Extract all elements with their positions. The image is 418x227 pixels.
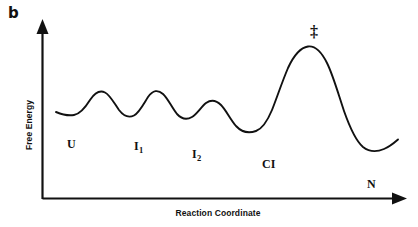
transition-state-double-dagger-icon: ‡ [310,24,318,40]
state-label-intermediate-1: I1 [134,140,143,152]
free-energy-curve [56,46,398,151]
state-label-intermediate-2: I2 [192,148,201,160]
x-axis-arrowhead-icon [392,193,407,205]
intermediate-2-subscript: 2 [197,153,201,163]
axis-lines [37,19,408,205]
intermediate-2-base: I [192,147,197,161]
intermediate-1-subscript: 1 [139,145,143,155]
y-axis-arrowhead-icon [37,19,49,34]
y-axis-title: Free Energy [24,100,34,150]
energy-landscape-plot [0,0,418,227]
state-label-unfolded: U [67,138,76,150]
free-energy-landscape-figure: b Free Energy Reaction Coordinate U I1 I… [0,0,418,227]
x-axis-title: Reaction Coordinate [175,208,260,218]
state-label-native: N [367,178,376,190]
intermediate-1-base: I [134,139,139,153]
state-label-collapsed-intermediate: CI [262,158,275,170]
